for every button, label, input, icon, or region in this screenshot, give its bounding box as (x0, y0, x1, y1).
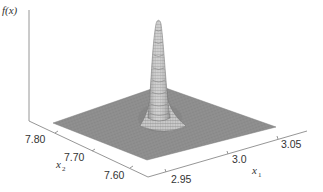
x2-tick-label: 7.60 (104, 169, 125, 181)
x1-tick-label: 3.05 (281, 138, 302, 150)
x1-axis-label-sub: 1 (258, 171, 262, 179)
x2-tick-label: 7.80 (25, 133, 46, 145)
x2-axis-label-sub: 2 (62, 165, 66, 173)
x1-tick-label: 3.0 (232, 153, 247, 165)
x1-tick-label: 2.95 (171, 173, 192, 185)
surface-plot: f(x) 7.80 7.70 7.60 x 2 2.95 3.0 3.05 x … (0, 0, 323, 192)
x2-axis-label: x (55, 158, 61, 170)
x2-tick-label: 7.70 (64, 151, 85, 163)
x1-axis-label: x (251, 164, 257, 176)
z-axis-label: f(x) (2, 4, 18, 17)
